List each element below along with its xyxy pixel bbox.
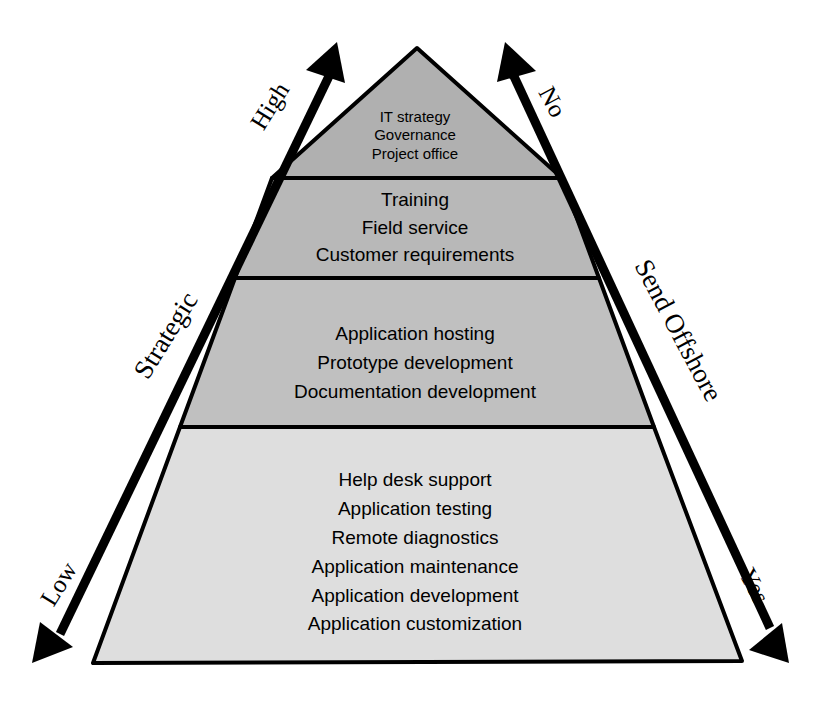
pyramid-diagram: IT strategy Governance Project office Tr… (0, 0, 820, 705)
pyramid-tier-4-shape (93, 427, 742, 663)
pyramid-tier-3-shape (180, 278, 654, 427)
pyramid-tier-2-shape (235, 178, 599, 278)
diagram-canvas (0, 0, 820, 705)
